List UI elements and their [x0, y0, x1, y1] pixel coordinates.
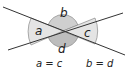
angle-a-label: a [35, 24, 42, 38]
angle-b-label: b [60, 6, 68, 20]
equation-a-equals-c: a = c [36, 58, 62, 69]
angle-d-label: d [58, 42, 66, 56]
equation-b-equals-d: b = d [86, 58, 113, 69]
angle-c-label: c [84, 26, 91, 40]
